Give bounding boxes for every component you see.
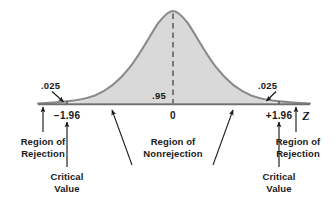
tick-label-right: +1.96 xyxy=(266,110,293,121)
axis-name-label: Z xyxy=(301,109,310,123)
right-critical-value-label-line2: Value xyxy=(266,183,291,194)
alpha-left-label: .025 xyxy=(41,80,61,91)
left-region-rejection-label-line1: Region of xyxy=(21,136,66,147)
region-nonrejection-label-line1: Region of xyxy=(151,136,196,147)
region-nonrejection-label-line2: Nonrejection xyxy=(143,148,202,159)
alpha-right-label: .025 xyxy=(258,80,278,91)
left-region-rejection-label-line2: Rejection xyxy=(21,148,65,159)
right-region-rejection-label-line2: Rejection xyxy=(276,148,320,159)
right-critical-value-label-line1: Critical xyxy=(262,171,295,182)
left-critical-value-label-line2: Value xyxy=(54,183,79,194)
confidence-area-label: .95 xyxy=(152,90,166,101)
nonrejection-leader-left xyxy=(112,110,132,165)
right-region-rejection-label-line1: Region of xyxy=(276,136,321,147)
figure-container: .025 .025 .95 −1.96 0 +1.96 Z Region of … xyxy=(0,0,336,202)
alpha-left-leader-arrow xyxy=(52,92,64,102)
tick-label-left: −1.96 xyxy=(54,110,81,121)
nonrejection-leader-right xyxy=(213,110,233,165)
left-critical-value-label-line1: Critical xyxy=(50,171,83,182)
normal-distribution-diagram: .025 .025 .95 −1.96 0 +1.96 Z Region of … xyxy=(0,0,336,202)
tick-label-center: 0 xyxy=(170,110,176,121)
